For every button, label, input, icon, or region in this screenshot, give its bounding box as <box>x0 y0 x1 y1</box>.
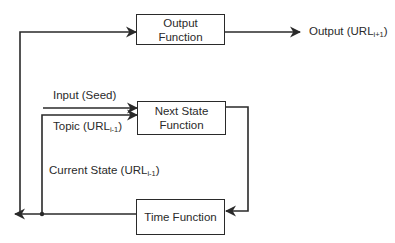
output-label: Output (URLi+1) <box>309 25 388 39</box>
next-state-function-label-2: Function <box>155 118 209 132</box>
next-state-function-label-1: Next State <box>155 104 209 118</box>
topic-label: Topic (URLi-1) <box>53 120 122 134</box>
output-label-close: ) <box>384 25 388 37</box>
next-state-function-box: Next State Function <box>137 101 226 135</box>
time-function-label: Time Function <box>144 210 216 224</box>
topic-label-text: Topic (URL <box>53 120 110 132</box>
current-state-label-subscript: i-1 <box>147 169 155 178</box>
input-seed-label-text: Input (Seed) <box>53 89 116 101</box>
output-function-box: Output Function <box>136 14 225 45</box>
junction-dot <box>40 212 44 216</box>
topic-label-subscript: i-1 <box>110 125 118 134</box>
current-state-label-text: Current State (URL <box>49 164 147 176</box>
output-label-subscript: i+1 <box>374 30 384 39</box>
output-label-text: Output (URL <box>309 25 374 37</box>
input-seed-label: Input (Seed) <box>53 89 116 101</box>
output-function-label-1: Output <box>158 16 202 30</box>
topic-label-close: ) <box>118 120 122 132</box>
current-state-label-close: ) <box>156 164 160 176</box>
current-state-label: Current State (URLi-1) <box>49 164 160 178</box>
time-function-box: Time Function <box>136 199 225 235</box>
next-state-to-time-arrow <box>226 107 248 211</box>
output-function-label-2: Function <box>158 30 202 44</box>
